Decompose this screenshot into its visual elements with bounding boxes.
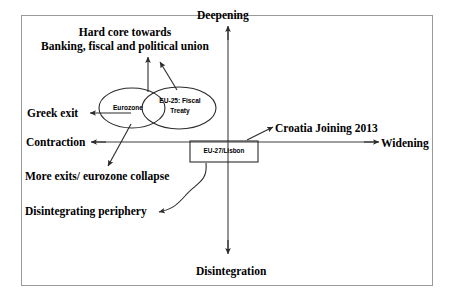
annotation-croatia-joining: Croatia Joining 2013 [275,122,378,136]
annotation-hard-core-line1: Hard core towards [30,26,220,40]
arrow-eu25-to-hardcore [160,62,177,90]
annotation-hard-core-line2: Banking, fiscal and political union [30,40,220,54]
node-label-eu27-lisbon: EU-27/Lisbon [192,146,256,156]
annotation-more-exits: More exits/ eurozone collapse [25,170,169,184]
node-label-eu25-line2: Treaty [154,106,206,116]
node-label-eurozone: Eurozone [104,103,152,113]
axis-label-deepening: Deepening [197,9,249,23]
annotation-greek-exit: Greek exit [27,107,78,121]
axis-label-contraction: Contraction [26,136,85,150]
node-label-eu25-line1: EU-25: Fiscal [154,96,206,106]
annotation-disintegrating-periphery: Disintegrating periphery [25,205,147,219]
annotation-hard-core: Hard core towards Banking, fiscal and po… [30,26,220,53]
axis-label-disintegration: Disintegration [196,265,266,279]
arrow-eurozone-to-more-exits [108,124,131,166]
axis-label-widening: Widening [381,137,429,151]
arrow-eu27-to-croatia [247,127,273,140]
node-label-eu25-fiscal-treaty: EU-25: Fiscal Treaty [154,96,206,116]
diagram-canvas: Deepening Disintegration Contraction Wid… [0,0,456,305]
